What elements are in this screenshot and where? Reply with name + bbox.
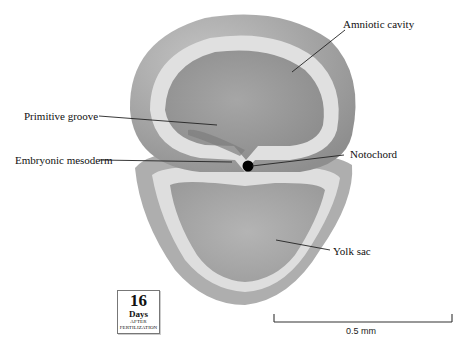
date-line2: FERTILIZATION xyxy=(118,325,159,331)
date-badge: 16 Days AFTER FERTILIZATION xyxy=(117,290,160,334)
amnion-shape xyxy=(130,14,356,172)
label-yolk-sac: Yolk sac xyxy=(333,245,371,257)
label-notochord: Notochord xyxy=(350,148,397,160)
yolk-sac-shape xyxy=(135,153,352,305)
embryo-cross-section xyxy=(0,0,462,353)
label-embryonic-mesoderm: Embryonic mesoderm xyxy=(15,154,112,166)
label-amniotic-cavity: Amniotic cavity xyxy=(343,18,414,30)
scale-bar-label: 0.5 mm xyxy=(346,326,376,336)
date-number: 16 xyxy=(118,293,159,309)
scale-bar xyxy=(274,314,452,322)
date-unit: Days xyxy=(118,309,159,319)
label-primitive-groove: Primitive groove xyxy=(24,110,98,122)
notochord-dot xyxy=(243,161,254,172)
embryo-diagram: Amniotic cavity Primitive groove Embryon… xyxy=(0,0,462,353)
